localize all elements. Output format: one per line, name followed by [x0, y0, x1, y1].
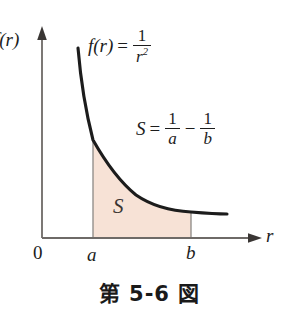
- fraction-denominator: a: [165, 128, 180, 147]
- exponent: 2: [143, 46, 148, 57]
- shaded-region-label: S: [113, 196, 124, 217]
- fraction-one-over-a: 1 a: [165, 110, 180, 147]
- fraction-numerator: 1: [135, 27, 150, 45]
- fraction-denominator: b: [200, 128, 215, 147]
- x-axis-arrow-icon: [248, 233, 262, 243]
- fraction-denominator: r2: [133, 45, 151, 65]
- figure-caption: 第 5-6 図: [0, 283, 299, 306]
- tick-label-a: a: [87, 245, 97, 264]
- fraction-numerator: 1: [165, 110, 180, 128]
- equation-area-lhs: S: [136, 119, 146, 138]
- y-axis-label: f(r): [0, 30, 19, 49]
- tick-label-origin: 0: [33, 243, 43, 262]
- tick-label-b: b: [186, 243, 196, 262]
- equation-area: S = 1 a − 1 b: [136, 110, 216, 147]
- shaded-region-S: [93, 140, 191, 238]
- equation-function: f(r) = 1 r2: [88, 27, 152, 65]
- equation-area-equals: =: [149, 119, 162, 138]
- fraction-one-over-b: 1 b: [200, 110, 215, 147]
- x-axis-label: r: [266, 226, 273, 245]
- equation-function-lhs: f(r): [88, 36, 113, 55]
- figure-container: f(r) r f(r) = 1 r2 S = 1 a − 1 b 0 a b S…: [0, 0, 299, 331]
- y-axis-arrow-icon: [37, 26, 47, 40]
- fraction-one-over-r-squared: 1 r2: [133, 27, 151, 65]
- equation-area-operator: −: [184, 119, 197, 138]
- equation-function-equals: =: [116, 36, 129, 55]
- fraction-numerator: 1: [200, 110, 215, 128]
